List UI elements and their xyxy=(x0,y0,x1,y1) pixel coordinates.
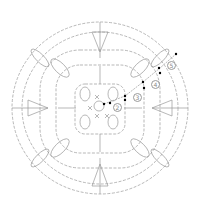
round-label-5: 5 xyxy=(167,61,176,70)
crochet-diagram: 2 3 4 5 xyxy=(0,0,201,211)
diagram-canvas xyxy=(0,0,201,211)
round-label-3: 3 xyxy=(133,93,142,102)
center-ring xyxy=(94,101,104,111)
round-label-2: 2 xyxy=(113,103,122,112)
round-label-4: 4 xyxy=(151,80,160,89)
